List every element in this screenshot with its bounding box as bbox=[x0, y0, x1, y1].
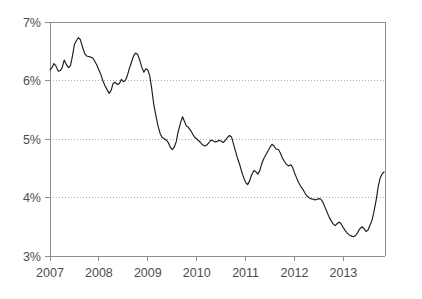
x-axis-tick-label: 2013 bbox=[330, 266, 358, 280]
y-axis-labels: 3%4%5%6%7% bbox=[23, 16, 41, 264]
line-chart: 3%4%5%6%7% 2007200820092010201120122013 bbox=[0, 0, 422, 299]
x-axis-labels: 2007200820092010201120122013 bbox=[36, 266, 357, 280]
y-axis-tick-label: 3% bbox=[23, 250, 41, 264]
x-axis-tick-label: 2011 bbox=[232, 266, 259, 280]
data-series bbox=[50, 38, 384, 237]
y-axis-tick-label: 6% bbox=[23, 74, 41, 88]
chart-axes bbox=[50, 22, 385, 256]
x-axis-tick-label: 2009 bbox=[134, 266, 162, 280]
data-line-rate bbox=[50, 38, 384, 237]
y-axis-tick-label: 5% bbox=[23, 133, 41, 147]
gridlines bbox=[50, 81, 385, 198]
y-axis-tick-label: 7% bbox=[23, 16, 41, 30]
x-axis-tick-label: 2007 bbox=[36, 266, 64, 280]
x-axis-tick-label: 2008 bbox=[85, 266, 113, 280]
axis-ticks bbox=[45, 22, 343, 261]
chart-container: 3%4%5%6%7% 2007200820092010201120122013 bbox=[0, 0, 422, 299]
x-axis-tick-label: 2012 bbox=[281, 266, 309, 280]
x-axis-tick-label: 2010 bbox=[183, 266, 211, 280]
y-axis-tick-label: 4% bbox=[23, 191, 41, 205]
